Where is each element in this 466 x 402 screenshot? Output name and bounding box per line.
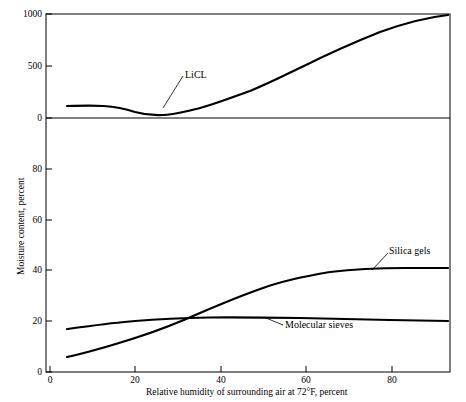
- xtick-label-0: 0: [38, 375, 62, 385]
- series-label-molecular-sieves: Molecular sieves: [285, 319, 353, 330]
- xtick-label-80: 80: [380, 375, 404, 385]
- ytick-label-500: 500: [4, 61, 42, 71]
- series-label-licl: LiCL: [185, 69, 207, 80]
- curve-licl: [67, 15, 448, 115]
- x-axis-title: Relative humidity of surrounding air at …: [146, 387, 347, 397]
- series-label-silica-gels: Silica gels: [389, 245, 430, 256]
- curve-molecular-sieves: [67, 317, 448, 329]
- leader-molecular-sieves: [266, 318, 283, 325]
- xtick-label-20: 20: [123, 375, 147, 385]
- chart-container: 1000 500 0 80 60 40 20 0 0 20 40 60 80 M…: [0, 0, 466, 402]
- curve-silica-gels: [67, 268, 448, 357]
- ytick-label-0: 0: [4, 367, 42, 377]
- xtick-label-40: 40: [209, 375, 233, 385]
- xtick-label-60: 60: [294, 375, 318, 385]
- ytick-label-upper-0: 0: [4, 113, 42, 123]
- leader-licl: [163, 76, 183, 108]
- y-axis-title: Moisture content, percent: [16, 178, 26, 275]
- ytick-label-20: 20: [4, 316, 42, 326]
- ytick-label-1000: 1000: [4, 9, 42, 19]
- chart-svg: [0, 0, 466, 402]
- ytick-label-80: 80: [4, 164, 42, 174]
